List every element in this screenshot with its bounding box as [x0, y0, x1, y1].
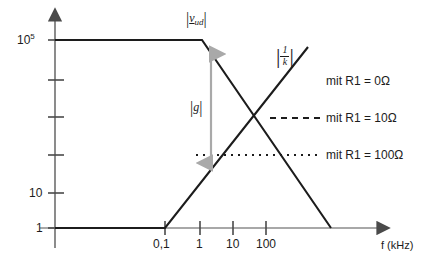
x-tick-label-1: 1	[196, 237, 203, 251]
legend-item-r1-100ohm: mit R1 = 100Ω	[326, 148, 403, 162]
label-g: |g|	[190, 100, 202, 116]
one-over-k-denominator: k	[280, 57, 289, 68]
legend-item-r1-10ohm: mit R1 = 10Ω	[326, 111, 397, 125]
y-tick-label-1: 1	[36, 221, 43, 235]
legend-item-r1-0ohm: mit R1 = 0Ω	[326, 74, 390, 88]
y-axis-ticks	[48, 40, 64, 228]
bode-plot-figure: 105 10 1 0,1 1 10 100 f (kHz) |vud| |1k|…	[0, 0, 432, 266]
y-tick-label-1e5: 105	[17, 32, 35, 47]
x-tick-label-0-1: 0,1	[153, 237, 170, 251]
plot-canvas	[0, 0, 432, 266]
one-over-k-numerator: 1	[280, 45, 289, 57]
label-one-over-k: |1k|	[276, 45, 294, 67]
one-over-k-fraction: 1k	[280, 45, 289, 67]
v-ud-bar-right: |	[204, 11, 207, 27]
x-axis-caption: f (kHz)	[381, 239, 413, 251]
label-v-ud: |vud|	[186, 11, 207, 27]
y-tick-label-10: 10	[29, 186, 42, 200]
g-bar-right: |	[199, 100, 202, 116]
one-over-k-bar-right: |	[289, 45, 293, 67]
v-ud-subscript: ud	[195, 17, 204, 27]
x-tick-label-10: 10	[226, 237, 239, 251]
y-tick-1e5-exp: 5	[30, 32, 34, 41]
curve-open-loop-gain	[55, 40, 331, 228]
x-tick-label-100: 100	[256, 237, 276, 251]
y-tick-1e5-base: 10	[17, 33, 30, 47]
